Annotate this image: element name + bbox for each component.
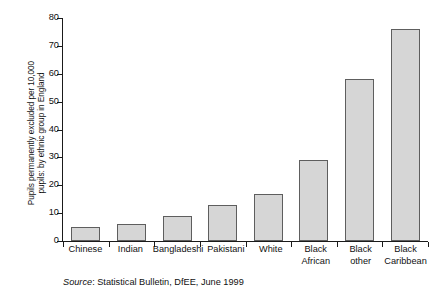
bar-slot <box>246 18 292 241</box>
bar-slot <box>200 18 246 241</box>
y-tick-label: 0 <box>54 235 59 246</box>
y-tick-label: 80 <box>49 12 59 23</box>
plot-area: 01020304050607080 <box>62 18 428 242</box>
x-axis-label-black-caribbean: Black Caribbean <box>383 244 428 267</box>
x-axis-label-pakistani: Pakistani <box>203 244 248 267</box>
source-label: Source <box>63 277 92 287</box>
bars-layer <box>63 18 428 241</box>
bar-chart-figure: Pupils permanently excluded per 10,000 p… <box>0 0 440 297</box>
x-axis-label-indian: Indian <box>108 244 153 267</box>
y-tick-label: 60 <box>49 68 59 79</box>
bar-slot <box>382 18 428 241</box>
bar-slot <box>63 18 109 241</box>
y-axis-title: Pupils permanently excluded per 10,000 p… <box>21 15 51 251</box>
x-axis-label-black-african: Black African <box>293 244 338 267</box>
bar-chinese <box>71 227 100 241</box>
x-axis-label-bangladeshi: Bangladeshi <box>153 244 204 267</box>
bar-black-african <box>299 160 328 241</box>
bar-bangladeshi <box>163 216 192 241</box>
y-tick-label: 40 <box>49 124 59 135</box>
x-axis-labels: ChineseIndianBangladeshiPakistaniWhiteBl… <box>63 244 428 267</box>
y-tick-label: 20 <box>49 179 59 190</box>
bar-pakistani <box>208 205 237 241</box>
bar-slot <box>154 18 200 241</box>
bar-black-other <box>345 79 374 241</box>
bar-slot <box>109 18 155 241</box>
x-axis-label-chinese: Chinese <box>63 244 108 267</box>
bar-white <box>254 194 283 241</box>
bar-slot <box>291 18 337 241</box>
source-caption: Source: Statistical Bulletin, DfEE, June… <box>63 276 244 288</box>
y-axis-title-line-1: Pupils permanently excluded per 10,000 <box>26 61 37 205</box>
bar-indian <box>117 224 146 241</box>
x-tick-mark <box>428 242 429 247</box>
x-axis-label-white: White <box>248 244 293 267</box>
y-tick-label: 10 <box>49 207 59 218</box>
bar-slot <box>337 18 383 241</box>
x-axis-label-black-other: Black other <box>338 244 383 267</box>
y-tick-label: 70 <box>49 40 59 51</box>
y-tick-label: 30 <box>49 151 59 162</box>
y-axis-title-line-2: pupils: by ethnic group in England <box>36 72 47 193</box>
source-text: : Statistical Bulletin, DfEE, June 1999 <box>92 277 244 287</box>
bar-black-caribbean <box>391 29 420 241</box>
y-tick-label: 50 <box>49 96 59 107</box>
